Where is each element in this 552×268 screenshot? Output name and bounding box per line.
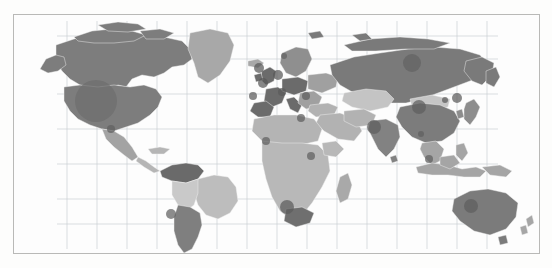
marker-turkey[interactable] [302,92,310,100]
world-map-canvas[interactable] [14,15,540,254]
map-figure-frame [13,14,540,254]
marker-south-africa[interactable] [280,200,294,214]
marker-argentina[interactable] [166,209,176,219]
marker-india[interactable] [367,120,381,134]
marker-sweden[interactable] [281,53,287,59]
country-tasmania[interactable] [498,235,508,245]
marker-russia[interactable] [403,54,421,72]
marker-united-states[interactable] [75,80,117,122]
marker-germany[interactable] [273,70,283,80]
marker-japan[interactable] [452,93,462,103]
marker-france[interactable] [258,78,268,88]
marker-italy[interactable] [278,88,286,96]
marker-china[interactable] [412,100,426,114]
marker-egypt[interactable] [297,114,305,122]
marker-united-kingdom[interactable] [254,63,264,73]
world-map-svg[interactable] [14,15,540,254]
marker-nigeria[interactable] [262,137,270,145]
marker-mexico[interactable] [107,125,115,133]
marker-indonesia[interactable] [425,155,433,163]
marker-spain[interactable] [249,92,257,100]
marker-thailand[interactable] [418,131,424,137]
marker-south-korea[interactable] [442,97,448,103]
marker-kenya[interactable] [307,152,315,160]
marker-australia[interactable] [464,199,478,213]
